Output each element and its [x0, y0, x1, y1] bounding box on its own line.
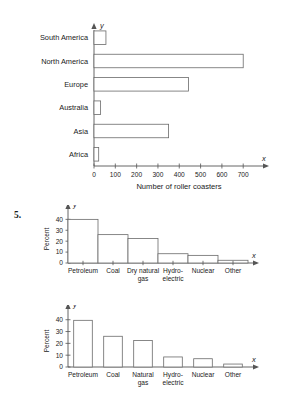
y-axis-arrow [91, 23, 96, 29]
category-label: Europe [64, 80, 88, 89]
bar [128, 238, 158, 263]
y-axis-tick-label: 10 [56, 352, 64, 359]
x-axis-name: x [251, 355, 256, 364]
y-axis-tick-label: 30 [56, 328, 64, 335]
category-label: gas [138, 275, 149, 283]
category-label: Nuclear [192, 267, 216, 274]
category-label: gas [138, 379, 149, 387]
category-label: electric [163, 275, 185, 282]
x-axis-name: x [261, 154, 266, 163]
bar [94, 31, 106, 44]
bar [164, 357, 183, 367]
energy-histogram-chart: yx010203040PercentPetroleumCoalDry natur… [0, 205, 281, 305]
category-label: Dry natural [127, 267, 160, 275]
category-label: Nuclear [192, 371, 216, 378]
x-axis-arrow [253, 364, 259, 369]
bar [94, 78, 188, 92]
x-axis-arrow [263, 163, 269, 168]
category-label: Australia [59, 103, 89, 112]
x-axis-tick-label: 400 [174, 171, 185, 178]
x-axis-tick-label: 0 [92, 171, 96, 178]
category-label: Coal [106, 267, 120, 274]
category-label: Natural [132, 371, 154, 378]
figure-page: yx0100200300400500600700AfricaAsiaAustra… [0, 0, 281, 407]
x-axis-title: Number of roller coasters [136, 182, 221, 191]
bar [68, 219, 98, 263]
bar [74, 320, 93, 367]
y-axis-tick-label: 40 [56, 316, 64, 323]
category-label: Other [225, 371, 242, 378]
x-axis-tick-label: 100 [110, 171, 121, 178]
bar [194, 359, 213, 367]
bar [94, 124, 169, 138]
category-label: South America [40, 33, 89, 42]
x-axis-name: x [251, 251, 256, 260]
y-axis-name: y [72, 305, 78, 309]
y-axis-tick-label: 0 [59, 259, 63, 266]
y-axis-tick-label: 10 [56, 248, 64, 255]
bar [94, 101, 101, 115]
y-axis-tick-label: 20 [56, 340, 64, 347]
category-label: electric [163, 379, 185, 386]
category-label: Hydro- [163, 267, 183, 275]
category-label: Petroleum [68, 267, 99, 274]
category-label: Coal [106, 371, 120, 378]
y-axis-name: y [99, 21, 105, 30]
bar [98, 235, 128, 263]
x-axis-tick-label: 500 [195, 171, 206, 178]
x-axis-tick-label: 700 [238, 171, 249, 178]
bar [94, 148, 99, 162]
y-axis-tick-label: 40 [56, 216, 64, 223]
y-axis-tick-label: 0 [59, 363, 63, 370]
y-axis-title: Percent [43, 329, 50, 352]
y-axis-name: y [72, 205, 78, 209]
roller-coasters-chart: yx0100200300400500600700AfricaAsiaAustra… [0, 0, 281, 196]
y-axis-tick-label: 30 [56, 227, 64, 234]
x-axis-tick-label: 200 [131, 171, 142, 178]
category-label: Hydro- [163, 371, 183, 379]
x-axis-tick-label: 300 [152, 171, 163, 178]
x-axis-arrow [253, 260, 259, 265]
y-axis-arrow [65, 205, 70, 209]
bar [104, 336, 123, 367]
energy-barchart-chart: yx010203040PercentPetroleumCoalNaturalga… [0, 305, 281, 405]
category-label: Petroleum [68, 371, 99, 378]
bar [224, 364, 243, 367]
bar [94, 54, 243, 68]
category-label: Asia [74, 127, 89, 136]
y-axis-title: Percent [43, 227, 50, 250]
category-label: North America [41, 57, 89, 66]
y-axis-tick-label: 20 [56, 238, 64, 245]
category-label: Other [225, 267, 242, 274]
y-axis-arrow [65, 305, 70, 309]
x-axis-tick-label: 600 [216, 171, 227, 178]
bar [134, 340, 153, 367]
category-label: Africa [69, 150, 89, 159]
